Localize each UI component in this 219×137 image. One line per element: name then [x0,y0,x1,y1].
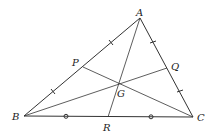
label-c: C [197,112,205,123]
label-q: Q [171,61,179,72]
side-ab [24,18,140,116]
triangle-diagram: A B C P Q R G [0,0,219,137]
label-g: G [117,88,125,99]
side-ca [140,18,193,117]
label-a: A [135,7,143,18]
label-b: B [11,111,19,122]
median-ar [108,18,140,117]
label-r: R [102,122,111,133]
median-bq [24,68,167,116]
median-cp [83,67,193,117]
label-p: P [71,57,79,68]
